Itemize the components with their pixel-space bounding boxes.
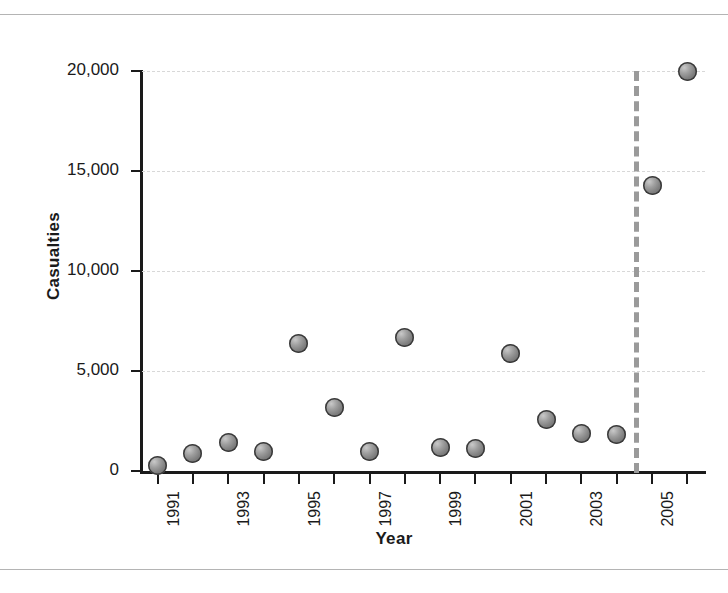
x-axis-tick: [157, 473, 159, 484]
event-marker-line: [634, 71, 639, 473]
gridline: [142, 71, 705, 72]
data-point: [219, 433, 238, 452]
data-point: [607, 425, 626, 444]
x-axis-tick: [580, 473, 582, 484]
data-point: [148, 456, 167, 475]
x-axis-tick: [545, 473, 547, 484]
x-axis-tick: [333, 473, 335, 484]
y-axis-tick-label: 20,000: [67, 60, 119, 80]
x-axis-tick: [616, 473, 618, 484]
x-axis-line: [140, 471, 706, 474]
x-axis-tick: [263, 473, 265, 484]
x-axis-tick-label: 2005: [659, 491, 677, 527]
gridline: [142, 171, 705, 172]
x-axis-tick: [298, 473, 300, 484]
x-axis-tick: [369, 473, 371, 484]
x-axis-tick-label: 2001: [518, 491, 536, 527]
x-axis-tick: [439, 473, 441, 484]
y-axis-tick: 15,000: [131, 170, 140, 172]
chart-figure: 05,00010,00015,00020,000 199119931995199…: [0, 0, 728, 593]
x-axis-tick-label: 1997: [377, 491, 395, 527]
x-axis-tick: [474, 473, 476, 484]
data-point: [431, 438, 450, 457]
x-axis-tick: [686, 473, 688, 484]
y-axis-tick: 10,000: [131, 270, 140, 272]
x-axis-tick: [192, 473, 194, 484]
y-axis-tick: 0: [131, 470, 140, 472]
x-axis-tick-label: 1995: [306, 491, 324, 527]
x-axis-tick: [227, 473, 229, 484]
data-point: [678, 62, 697, 81]
y-axis-tick: 5,000: [131, 370, 140, 372]
data-point: [395, 328, 414, 347]
data-point: [643, 176, 662, 195]
x-axis-tick: [510, 473, 512, 484]
gridline: [142, 271, 705, 272]
y-axis-tick-label: 15,000: [67, 160, 119, 180]
plot-area: 05,00010,00015,00020,000 199119931995199…: [140, 71, 705, 471]
data-point: [501, 344, 520, 363]
y-axis-tick: 20,000: [131, 70, 140, 72]
x-axis-tick: [651, 473, 653, 484]
y-axis-title: Casualties: [44, 212, 64, 300]
x-axis-tick-label: 2003: [588, 491, 606, 527]
data-point: [325, 398, 344, 417]
data-point: [183, 444, 202, 463]
data-point: [466, 439, 485, 458]
x-axis-title: Year: [0, 529, 728, 549]
figure-bottom-rule: [0, 569, 728, 570]
figure-top-rule: [0, 14, 728, 15]
x-axis-tick-label: 1993: [235, 491, 253, 527]
data-point: [289, 334, 308, 353]
y-axis-tick-label: 0: [110, 460, 119, 480]
y-axis-tick-label: 5,000: [76, 360, 119, 380]
data-point: [360, 442, 379, 461]
x-axis-tick-label: 1991: [165, 491, 183, 527]
x-axis-tick-label: 1999: [447, 491, 465, 527]
data-point: [537, 410, 556, 429]
data-point: [572, 424, 591, 443]
data-point: [254, 442, 273, 461]
gridline: [142, 371, 705, 372]
y-axis-tick-label: 10,000: [67, 260, 119, 280]
x-axis-tick: [404, 473, 406, 484]
